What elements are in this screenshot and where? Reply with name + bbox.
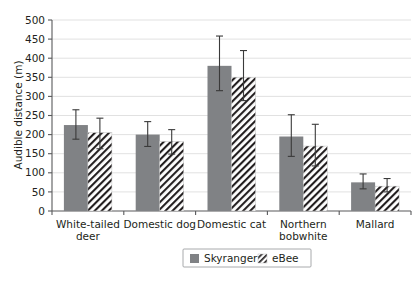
legend-swatch-skyranger	[190, 254, 199, 263]
bar-chart-svg: 050100150200250300350400450500 White-tai…	[0, 0, 420, 283]
y-tick-label: 150	[25, 147, 45, 159]
y-tick-label: 100	[25, 166, 45, 178]
y-tick-label: 250	[25, 109, 45, 121]
y-tick-label: 300	[25, 90, 45, 102]
chart-figure: 050100150200250300350400450500 White-tai…	[0, 0, 420, 283]
category-label-0: deer	[76, 230, 101, 242]
y-axis-title: Audible distance (m)	[12, 60, 24, 169]
category-label-1: Domestic dog	[123, 218, 196, 230]
y-tick-label: 350	[25, 71, 45, 83]
y-tick-label: 450	[25, 33, 45, 45]
y-tick-label: 200	[25, 128, 45, 140]
y-tick-label: 50	[32, 186, 45, 198]
y-tick-label: 0	[38, 205, 45, 217]
category-label-3: Northern	[280, 218, 327, 230]
category-label-4: Mallard	[356, 218, 395, 230]
y-tick-label: 400	[25, 52, 45, 64]
legend-swatch-ebee	[258, 254, 267, 263]
legend-label-ebee: eBee	[272, 252, 299, 264]
chart-legend: Skyranger eBee	[183, 249, 311, 267]
y-tick-label: 500	[25, 14, 45, 26]
category-label-3: bobwhite	[279, 230, 328, 242]
category-label-0: White-tailed	[56, 218, 120, 230]
legend-label-skyranger: Skyranger	[204, 252, 258, 264]
category-label-2: Domestic cat	[197, 218, 266, 230]
